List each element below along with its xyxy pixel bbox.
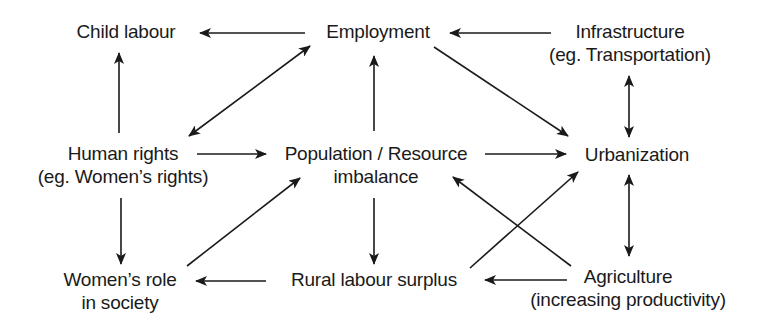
node-label: Agriculture: [530, 265, 726, 288]
node-sublabel: (eg. Women’s rights): [38, 165, 209, 188]
node-child-labour: Child labour: [77, 20, 176, 43]
node-womens-role: Women’s role in society: [63, 268, 176, 314]
node-sublabel: (increasing productivity): [530, 288, 726, 311]
node-label: Urbanization: [585, 143, 689, 166]
node-employment: Employment: [326, 20, 430, 43]
edge-agriculture-to-population: [453, 177, 571, 266]
edge-employment-to-urbanization: [434, 47, 568, 136]
node-label: Infrastructure: [549, 20, 711, 43]
node-agriculture: Agriculture (increasing productivity): [530, 265, 726, 311]
node-urbanization: Urbanization: [585, 143, 689, 166]
causal-diagram: Child labour Employment Infrastructure (…: [0, 0, 771, 335]
node-human-rights: Human rights (eg. Women’s rights): [38, 142, 209, 188]
node-rural-labour-surplus: Rural labour surplus: [291, 268, 457, 291]
edge-human-rights-employment: [189, 46, 310, 136]
edge-womens-role-to-population: [187, 178, 300, 266]
node-infrastructure: Infrastructure (eg. Transportation): [549, 20, 711, 66]
node-label: Population / Resource: [285, 142, 468, 165]
node-sublabel: imbalance: [285, 165, 468, 188]
node-sublabel: (eg. Transportation): [549, 43, 711, 66]
node-label: Employment: [326, 20, 430, 43]
node-label: Child labour: [77, 20, 176, 43]
node-label: Human rights: [38, 142, 209, 165]
edge-rural-labour-to-urbanization: [470, 172, 578, 268]
node-label: Women’s role: [63, 268, 176, 291]
node-population-resource-imbalance: Population / Resource imbalance: [285, 142, 468, 188]
node-label: Rural labour surplus: [291, 268, 457, 291]
node-sublabel: in society: [63, 291, 176, 314]
